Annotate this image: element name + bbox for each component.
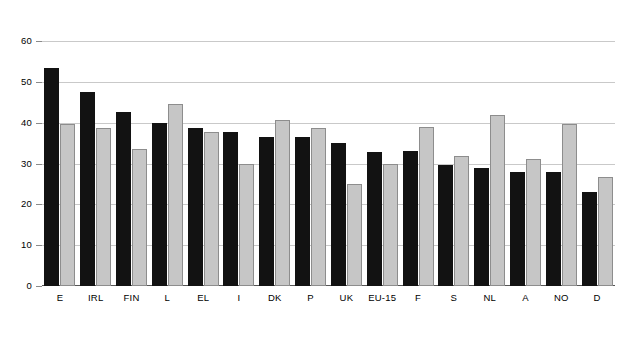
bar-group [149,41,185,286]
bar-light [526,159,541,286]
bar-light [60,124,75,286]
bar-dark [474,168,489,286]
bar-dark [295,137,310,286]
bar-dark [223,132,238,286]
bar-group [543,41,579,286]
y-axis-label-50: 50 [0,77,32,87]
bar-group [221,41,257,286]
bar-groups [42,41,615,286]
bar-dark [510,172,525,286]
bar-light [490,115,505,286]
x-axis-label: S [436,292,472,303]
bar-dark [188,128,203,286]
bar-light [419,127,434,286]
bar-group [185,41,221,286]
x-axis-label: EU-15 [364,292,400,303]
x-axis-label: D [579,292,615,303]
bar-group [257,41,293,286]
bar-group [436,41,472,286]
bar-light [562,124,577,286]
bar-light [383,164,398,286]
bar-light [204,132,219,286]
bar-chart: 60 50 40 30 20 10 0 EIRLFINLELIDKPUKEU-1… [0,0,625,348]
x-axis-label: I [221,292,257,303]
bar-dark [80,92,95,286]
bar-group [114,41,150,286]
bar-group [42,41,78,286]
bar-group [364,41,400,286]
x-axis-label: L [149,292,185,303]
bar-group [579,41,615,286]
bar-dark [403,151,418,286]
y-axis-label-60: 60 [0,36,32,46]
bar-dark [367,152,382,286]
bar-dark [546,172,561,286]
bar-dark [44,68,59,286]
x-axis-label: A [508,292,544,303]
x-axis-label: NO [543,292,579,303]
x-axis-label: IRL [78,292,114,303]
bar-dark [331,143,346,286]
bar-light [132,149,147,286]
bar-light [598,177,613,286]
y-axis-label-40: 40 [0,118,32,128]
x-axis-label: F [400,292,436,303]
bar-group [400,41,436,286]
bar-dark [582,192,597,286]
bar-group [329,41,365,286]
bar-group [508,41,544,286]
x-axis-label: P [293,292,329,303]
bar-dark [116,112,131,286]
bar-group [472,41,508,286]
y-tick-mark [36,286,42,287]
x-axis-label: EL [185,292,221,303]
x-axis: EIRLFINLELIDKPUKEU-15FSNLANOD [42,292,615,303]
bar-dark [259,137,274,286]
bar-light [239,164,254,286]
bar-group [78,41,114,286]
bar-light [275,120,290,286]
x-axis-label: DK [257,292,293,303]
y-axis-label-30: 30 [0,159,32,169]
bar-light [347,184,362,286]
bar-light [168,104,183,286]
x-axis-label: NL [472,292,508,303]
x-axis-label: FIN [114,292,150,303]
y-axis-label-20: 20 [0,199,32,209]
bar-light [96,128,111,286]
bar-group [293,41,329,286]
x-axis-label: E [42,292,78,303]
y-axis-label-0: 0 [0,281,32,291]
bar-dark [152,123,167,286]
y-axis-label-10: 10 [0,240,32,250]
bar-light [454,156,469,286]
x-axis-label: UK [329,292,365,303]
bar-light [311,128,326,286]
bar-dark [438,165,453,286]
